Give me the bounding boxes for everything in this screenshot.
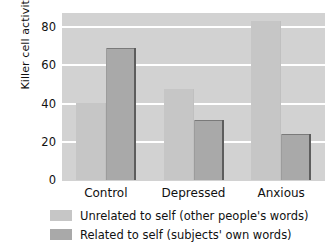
legend-swatch-series0 <box>50 210 72 221</box>
legend-item-series1: Related to self (subjects' own words) <box>50 225 335 244</box>
y-tick-label-20: 20 <box>22 137 56 148</box>
bar-anxious-series1 <box>281 134 311 181</box>
bar-anxious-series0 <box>251 21 281 181</box>
x-axis-baseline <box>62 180 325 181</box>
y-tick-label-60: 60 <box>22 60 56 71</box>
y-tick-label-40: 40 <box>22 99 56 110</box>
legend-item-series0: Unrelated to self (other people's words) <box>50 206 335 225</box>
x-tick-label-control: Control <box>61 186 151 200</box>
gridline-60 <box>62 64 325 66</box>
x-tick-label-depressed: Depressed <box>149 186 239 200</box>
bar-control-series0 <box>76 103 106 181</box>
bar-depressed-series0 <box>164 89 194 181</box>
gridline-80 <box>62 26 325 28</box>
legend-label-series0: Unrelated to self (other people's words) <box>80 210 309 222</box>
y-tick-label-0: 0 <box>22 175 56 186</box>
x-tick-label-anxious: Anxious <box>236 186 326 200</box>
bar-control-series1 <box>106 48 136 181</box>
killer-cell-activity-bar-chart: Killer cell activity 020406080 ControlDe… <box>0 0 335 250</box>
bar-depressed-series1 <box>194 120 224 181</box>
plot-area <box>62 13 325 181</box>
legend-swatch-series1 <box>50 229 72 240</box>
chart-legend: Unrelated to self (other people's words)… <box>50 206 335 244</box>
y-tick-label-80: 80 <box>22 22 56 33</box>
legend-label-series1: Related to self (subjects' own words) <box>80 229 292 241</box>
